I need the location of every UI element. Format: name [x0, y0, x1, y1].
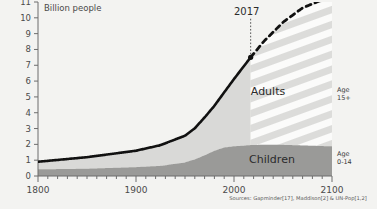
y-tick-label: 6: [26, 76, 31, 86]
age-legend-children-line2: 0-14: [337, 158, 352, 166]
y-axis-title: Billion people: [44, 3, 101, 13]
source-note: Sources: Gapminder[17], Maddison[2] & UN…: [229, 195, 367, 202]
y-tick-label: 9: [26, 29, 31, 39]
age-legend-adults-line1: Age: [337, 86, 350, 94]
children-area-label: Children: [249, 153, 295, 166]
year-2017-marker-dot: [248, 55, 253, 60]
population-chart-figure: 01234567891011 1800190020002100 Billion …: [0, 0, 377, 209]
x-tick-label: 1900: [125, 185, 148, 195]
y-tick-label: 7: [26, 60, 31, 70]
x-tick-label: 1800: [27, 185, 50, 195]
year-2017-label: 2017: [234, 6, 259, 17]
y-tick-label: 3: [26, 124, 31, 134]
age-legend-children: Age 0-14: [337, 150, 352, 166]
y-tick-label: 1: [26, 155, 31, 165]
y-tick-label: 4: [26, 108, 31, 118]
y-tick-label: 11: [20, 0, 31, 7]
y-tick-label: 8: [26, 44, 31, 54]
y-tick-label: 2: [26, 139, 31, 149]
y-tick-label: 5: [26, 92, 31, 102]
adults-area-label: Adults: [251, 85, 286, 98]
age-legend-adults-line2: 15+: [337, 94, 351, 102]
y-tick-label: 10: [20, 13, 31, 23]
x-tick-label: 2100: [321, 185, 344, 195]
chart-canvas: 01234567891011 1800190020002100 Billion …: [0, 0, 377, 209]
age-legend-adults: Age 15+: [337, 86, 351, 102]
x-tick-label: 2000: [223, 185, 246, 195]
age-legend-children-line1: Age: [337, 150, 350, 158]
y-tick-label: 0: [26, 171, 31, 181]
